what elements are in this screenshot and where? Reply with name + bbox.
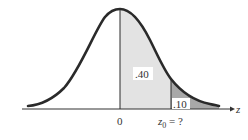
axis-arrow-icon bbox=[230, 107, 235, 112]
area-label-040: .40 bbox=[135, 68, 149, 80]
normal-curve-diagram: .40 .10 z 0 z0 = ? bbox=[0, 0, 248, 140]
z0-suffix: = ? bbox=[166, 115, 183, 127]
tick-label-z0: z0 = ? bbox=[157, 115, 183, 130]
axis-label-z: z bbox=[235, 103, 241, 115]
area-region-040 bbox=[120, 9, 171, 109]
area-label-010: .10 bbox=[173, 98, 187, 110]
tick-label-zero: 0 bbox=[117, 115, 123, 127]
